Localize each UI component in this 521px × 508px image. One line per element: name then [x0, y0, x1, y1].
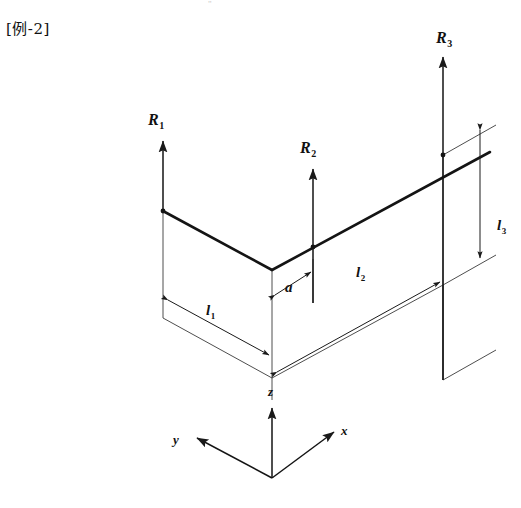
- axis-label-y: y: [173, 433, 179, 446]
- tie-lower-l3: [443, 255, 496, 285]
- force-label-r2: R2: [300, 140, 316, 159]
- base-edge-far-right: [443, 350, 496, 380]
- dimension-arrow-l2: [277, 282, 440, 372]
- force-label-r3: R3: [436, 30, 452, 49]
- force-label-r2-subscript: 2: [311, 148, 316, 159]
- dimension-label-l1-base: l: [206, 302, 210, 318]
- axis-label-x: x: [341, 424, 348, 437]
- beam-nodes: [161, 153, 446, 250]
- force-label-r1-base: R: [148, 111, 159, 128]
- force-label-r3-base: R: [436, 29, 447, 46]
- dimension-label-a: a: [285, 280, 293, 298]
- dimension-label-l2-base: l: [356, 264, 360, 280]
- tie-upper-l3: [443, 125, 496, 155]
- dimension-label-l2: l2: [356, 265, 365, 283]
- force-label-r2-base: R: [300, 139, 311, 156]
- diagram-canvas: [0, 0, 521, 508]
- dimension-label-a-base: a: [285, 279, 293, 295]
- dimension-label-l3: l3: [497, 218, 506, 236]
- force-label-r1-subscript: 1: [159, 120, 164, 131]
- dimension-label-l1: l1: [206, 303, 215, 321]
- axis-label-z: z: [268, 385, 273, 398]
- figure-root: " [例-2]: [0, 0, 521, 508]
- dimension-label-l2-subscript: 2: [361, 273, 366, 283]
- force-label-r3-subscript: 3: [447, 38, 452, 49]
- dimension-label-l1-subscript: 1: [211, 311, 216, 321]
- dimension-arrow-a: [275, 272, 311, 295]
- beam-segment-right: [272, 152, 490, 270]
- dimension-label-l3-base: l: [497, 217, 501, 233]
- beam-segment-left: [163, 211, 272, 270]
- base-edge-right: [272, 285, 443, 378]
- force-label-r1: R1: [148, 112, 164, 131]
- dimension-label-l3-subscript: 3: [502, 226, 507, 236]
- axis-arrow-y: [197, 438, 272, 478]
- axis-arrow-x: [272, 432, 334, 478]
- dimension-arrow-l1: [168, 300, 269, 355]
